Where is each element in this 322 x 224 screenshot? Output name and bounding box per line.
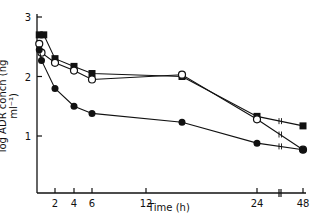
y-tick-label: 1 (25, 131, 31, 142)
x-tick-label: 48 (297, 198, 310, 209)
data-point (300, 146, 307, 153)
data-point (52, 59, 59, 66)
series-square-filled (36, 31, 307, 129)
data-point (300, 122, 307, 129)
series-circle-open (36, 40, 307, 153)
chart-canvas: 123 246122448 (0, 0, 322, 224)
data-point (40, 31, 47, 38)
data-series (36, 31, 307, 153)
x-axis-label: Time (h) (148, 202, 190, 213)
data-point (254, 140, 261, 147)
data-point (71, 103, 78, 110)
x-tick-label: 6 (89, 198, 95, 209)
y-tick-label: 2 (25, 72, 31, 83)
data-point (179, 119, 186, 126)
x-tick-label: 4 (71, 198, 77, 209)
series-circle-filled (36, 46, 307, 153)
y-axis-label: log ADR concn (ng ml⁻¹) (0, 46, 19, 166)
data-point (36, 46, 43, 53)
data-point (52, 85, 59, 92)
x-tick-label: 2 (52, 198, 58, 209)
x-tick-label: 24 (251, 198, 264, 209)
data-point (38, 57, 45, 64)
data-point (89, 110, 96, 117)
data-point (254, 116, 261, 123)
data-point (89, 76, 96, 83)
y-tick-label: 3 (25, 12, 31, 23)
data-point (179, 71, 186, 78)
axes (37, 14, 306, 193)
data-point (71, 67, 78, 74)
